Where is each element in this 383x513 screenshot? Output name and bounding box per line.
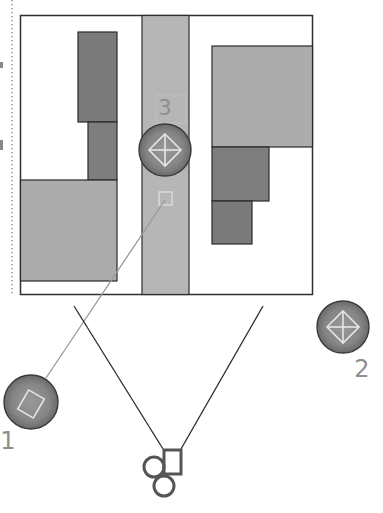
building-left-large: [21, 180, 118, 281]
view-cone-left: [74, 306, 163, 449]
camera-1-label: 1: [0, 427, 15, 455]
building-right-small: [212, 201, 252, 244]
camera-3-label: 3: [158, 96, 171, 120]
camera-1-body: [4, 375, 58, 429]
building-left-tall: [78, 32, 117, 122]
camera-1[interactable]: 1: [0, 375, 58, 455]
edge-mark: [0, 62, 3, 68]
building-right-large: [212, 46, 313, 147]
camera-plan-diagram: 3 2 1: [0, 0, 383, 513]
building-right-mid: [212, 147, 269, 201]
camera-viewer-icon: [144, 450, 181, 496]
camera-2-label: 2: [354, 355, 369, 383]
camera-2[interactable]: 2: [317, 301, 370, 383]
building-left-small: [88, 122, 117, 180]
edge-mark: [0, 140, 3, 150]
view-cone-right: [181, 306, 263, 449]
